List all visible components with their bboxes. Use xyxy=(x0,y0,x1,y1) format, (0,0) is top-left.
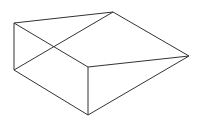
edge-EB xyxy=(14,12,113,70)
wireframe-diagram xyxy=(0,0,199,131)
edge-AD xyxy=(14,23,88,67)
edge-BC xyxy=(113,12,189,56)
edge-EF xyxy=(14,70,88,115)
edge-AB xyxy=(14,12,113,23)
